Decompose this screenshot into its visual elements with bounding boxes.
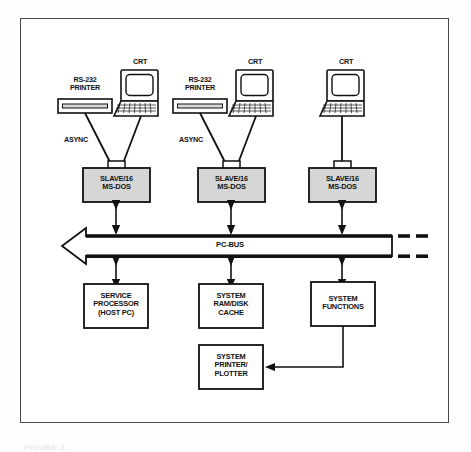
async-link-crt-2 <box>237 116 256 166</box>
rs232-printer-label-1: RS-232 PRINTER <box>50 76 120 92</box>
rs232-printer-icon-2 <box>173 99 227 113</box>
slave-label-2: SLAVE/16 MS-DOS <box>198 175 265 192</box>
crt-label-1: CRT <box>120 58 160 66</box>
system-printer-plotter-label: SYSTEM PRINTER/ PLOTTER <box>199 353 263 378</box>
rs232-printer-icon-1 <box>58 99 112 113</box>
system-ram-disk-cache-label: SYSTEM RAM/DISK CACHE <box>199 292 263 317</box>
service-processor-label: SERVICE PROCESSOR (HOST PC) <box>84 292 148 317</box>
crt-icon-2 <box>229 70 273 116</box>
diagram-canvas <box>0 0 471 452</box>
slave-label-3: SLAVE/16 MS-DOS <box>309 175 376 192</box>
async-label-1: ASYNC <box>53 136 99 144</box>
pc-bus-label: PC-BUS <box>200 241 260 250</box>
async-link-crt-1 <box>122 116 141 166</box>
slave-label-1: SLAVE/16 MS-DOS <box>83 175 150 192</box>
crt-label-3: CRT <box>326 58 366 66</box>
crt-label-2: CRT <box>235 58 275 66</box>
crt-icon-1 <box>114 70 158 116</box>
crt-icon-3 <box>320 70 364 116</box>
diagram-page: RS-232 PRINTER CRT ASYNC SLAVE/16 MS-DOS… <box>0 0 471 452</box>
figure-caption: FIGURE 2. <box>24 443 68 452</box>
async-label-2: ASYNC <box>168 136 214 144</box>
link-system-functions-to-printer <box>270 326 343 367</box>
system-functions-label: SYSTEM FUNCTIONS <box>311 295 375 312</box>
rs232-printer-label-2: RS-232 PRINTER <box>165 76 235 92</box>
